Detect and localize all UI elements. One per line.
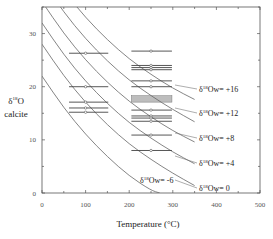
measurement-point <box>84 107 86 109</box>
x-tick-label: 400 <box>211 201 222 209</box>
y-tick-label: 20 <box>29 83 37 91</box>
y-tick-label: 30 <box>29 30 37 38</box>
chart: 01002003004005000102030Temperature (°C)δ… <box>0 0 273 239</box>
curve-label: δ18Ow= +4 <box>199 159 234 168</box>
measurement-point <box>84 86 86 88</box>
measurement-point <box>150 86 152 88</box>
measurement-point <box>150 149 152 151</box>
measurement-point <box>150 80 152 82</box>
y-tick-label: 10 <box>29 136 37 144</box>
measurement-point <box>150 109 152 111</box>
measurement-group-100c <box>69 52 108 113</box>
x-tick-label: 0 <box>40 201 44 209</box>
y-axis-title-2: calcite <box>4 109 27 119</box>
measurement-point <box>150 134 152 136</box>
curve-label: δ18Ow= +16 <box>199 85 238 94</box>
curve-label: δ18Ow= +8 <box>199 134 234 143</box>
y-axis-title: δ18O <box>8 96 24 106</box>
curve-label: δ18Ow= -6 <box>140 176 174 185</box>
measurement-point <box>84 101 86 103</box>
x-axis-title: Temperature (°C) <box>116 219 179 229</box>
isotope-curve <box>42 0 195 99</box>
isotope-curve <box>42 23 195 164</box>
measurement-point <box>150 69 152 71</box>
x-tick-label: 500 <box>255 201 266 209</box>
y-tick-label: 0 <box>33 190 37 198</box>
measurement-point <box>150 120 152 122</box>
measurement-point <box>150 117 152 119</box>
measurement-point <box>84 111 86 113</box>
x-tick-label: 300 <box>168 201 179 209</box>
measurement-point <box>84 52 86 54</box>
isotope-curve <box>42 0 195 122</box>
shaded-band <box>131 96 172 102</box>
x-tick-label: 200 <box>124 201 135 209</box>
measurement-point <box>150 50 152 52</box>
curve-label: δ18Ow= 0 <box>199 184 230 193</box>
curve-label: δ18Ow= +12 <box>199 109 238 118</box>
x-tick-label: 100 <box>80 201 91 209</box>
